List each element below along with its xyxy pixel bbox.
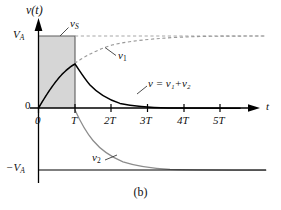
vs-leader-line bbox=[60, 28, 69, 37]
x-tick-label-0: 0 bbox=[35, 115, 41, 126]
x-axis-label: t bbox=[266, 101, 269, 112]
x-tick-label-2t: 2T bbox=[104, 115, 116, 126]
curve-label-v-sum: v = v₁+v₂ bbox=[148, 78, 191, 89]
y-tick-neg-va-sub: A bbox=[20, 166, 25, 175]
y-tick-label-va: VA bbox=[13, 29, 24, 41]
y-tick-neg-va-main: −V bbox=[6, 161, 20, 173]
curve-label-v1-sub: 1 bbox=[123, 54, 127, 63]
x-tick-label-t: T bbox=[71, 115, 77, 126]
v1-leader-line bbox=[105, 48, 116, 56]
input-pulse-shaded-region bbox=[39, 36, 76, 108]
figure-b-waveform-plot: v(t) VA 0 −VA 0 T 2T 3T 4T 5T t vS v1 v … bbox=[0, 0, 281, 210]
curve-label-v2-sub: 2 bbox=[97, 156, 101, 165]
curve-label-v-sum-tail: = v₁+v₂ bbox=[153, 77, 191, 89]
x-tick-label-5t: 5T bbox=[213, 115, 225, 126]
x-axis-arrowhead-icon bbox=[248, 104, 260, 112]
y-tick-va-sub: A bbox=[20, 33, 25, 42]
y-tick-label-zero: 0 bbox=[25, 100, 31, 111]
vsum-leader-line bbox=[137, 86, 147, 94]
curve-label-vs-sub: S bbox=[75, 22, 79, 31]
y-axis-arrowhead-icon bbox=[35, 18, 43, 31]
y-axis-label: v(t) bbox=[26, 4, 43, 16]
curve-label-v1: v1 bbox=[118, 50, 127, 62]
curve-label-v2: v2 bbox=[92, 152, 101, 164]
figure-caption: (b) bbox=[0, 185, 281, 200]
y-tick-va-main: V bbox=[13, 28, 20, 40]
curve-label-vs: vS bbox=[70, 18, 79, 30]
y-tick-label-neg-va: −VA bbox=[6, 162, 25, 174]
x-tick-label-3t: 3T bbox=[140, 115, 152, 126]
x-tick-label-4t: 4T bbox=[177, 115, 189, 126]
plot-canvas bbox=[0, 0, 281, 210]
